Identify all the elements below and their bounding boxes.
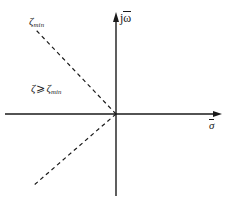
axes-group xyxy=(5,12,222,196)
real-axis-label-sigma: σ xyxy=(209,119,214,131)
real-axis-label: σ xyxy=(209,119,214,131)
plot-canvas xyxy=(0,0,233,204)
zeta-inequality-label: ζ⩾ζmin xyxy=(31,83,62,96)
damping-boundary-lower-line xyxy=(33,114,116,186)
imaginary-axis-arrowhead xyxy=(113,12,119,22)
imaginary-axis-label: jω xyxy=(120,11,131,24)
damping-boundary-group xyxy=(33,30,116,186)
damping-boundary-upper-line xyxy=(36,30,116,114)
splane-diagram: jω σ ζmin ζ⩾ζmin xyxy=(0,0,233,204)
imaginary-axis-label-omega: ω xyxy=(123,11,131,24)
zeta-inequality-relation: ⩾ xyxy=(35,82,46,94)
zeta-min-label: ζmin xyxy=(29,16,44,29)
zeta-inequality-right-subscript: min xyxy=(51,88,62,95)
real-axis-arrowhead xyxy=(213,111,222,117)
zeta-min-subscript: min xyxy=(33,21,44,28)
